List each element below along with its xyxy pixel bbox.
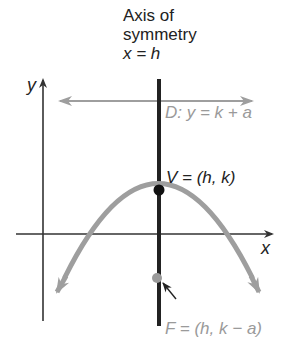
focus-label: F = (h, k − a) — [165, 320, 262, 337]
focus-pointer-arrow — [163, 283, 176, 299]
vertex-label: V = (h, k) — [166, 169, 235, 186]
title-line-1: Axis of — [123, 6, 197, 25]
title-line-2: symmetry — [123, 25, 197, 44]
directrix-label: D: y = k + a — [165, 104, 252, 121]
focus-point — [152, 273, 162, 283]
y-axis-label: y — [27, 76, 36, 94]
parabola-right-arrow — [251, 276, 259, 292]
vertex-point — [154, 185, 165, 196]
parabola-left-arrow — [57, 276, 66, 292]
title-line-3: x = h — [123, 44, 197, 63]
axis-of-symmetry-title: Axis of symmetry x = h — [123, 6, 197, 63]
x-axis-label: x — [261, 239, 270, 257]
